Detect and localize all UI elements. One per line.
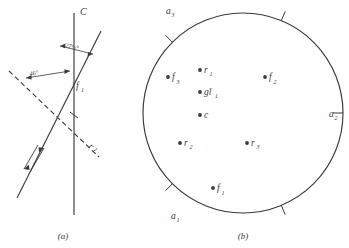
svg-text:3: 3 bbox=[171, 12, 175, 18]
svg-text:f: f bbox=[76, 81, 80, 91]
svg-text:r: r bbox=[184, 138, 188, 148]
label-a2: a 2 bbox=[329, 109, 338, 121]
figure-container: C 27½° 46° f 1 bbox=[0, 0, 349, 248]
label-point-r2: r 2 bbox=[184, 138, 193, 150]
svg-text:r: r bbox=[251, 138, 255, 148]
label-cleavage-C: C bbox=[80, 6, 87, 17]
label-angle-upper: 27½° bbox=[65, 41, 80, 51]
svg-text:3: 3 bbox=[176, 79, 180, 85]
tick-a3 bbox=[165, 35, 172, 42]
svg-text:f: f bbox=[217, 183, 221, 193]
svg-text:gl: gl bbox=[204, 87, 212, 97]
rim-ticks bbox=[165, 11, 343, 214]
point-r3 bbox=[245, 141, 249, 145]
svg-text:a: a bbox=[329, 109, 334, 119]
svg-text:2: 2 bbox=[190, 144, 193, 150]
label-point-c: c bbox=[204, 110, 209, 120]
figure-svg: C 27½° 46° f 1 bbox=[0, 0, 349, 248]
stereonet-circle bbox=[143, 13, 343, 213]
svg-text:2: 2 bbox=[274, 79, 277, 85]
svg-text:1: 1 bbox=[215, 93, 218, 99]
label-point-gl1: gl 1 bbox=[204, 87, 218, 99]
point-gl1 bbox=[198, 90, 202, 94]
label-a1: a 1 bbox=[171, 211, 180, 223]
point-r1 bbox=[198, 68, 202, 72]
tick-bottom-right bbox=[281, 205, 285, 214]
svg-text:r: r bbox=[204, 65, 208, 75]
svg-text:a: a bbox=[171, 211, 176, 221]
point-f2 bbox=[263, 75, 267, 79]
label-point-r1: r 1 bbox=[204, 65, 213, 77]
svg-text:1: 1 bbox=[210, 71, 213, 77]
svg-text:f: f bbox=[172, 72, 176, 82]
svg-text:f: f bbox=[269, 72, 273, 82]
caption-panel-b: (b) bbox=[238, 231, 249, 241]
svg-text:1: 1 bbox=[177, 217, 180, 223]
tick-top-right bbox=[281, 11, 285, 20]
dashed-line-r1 bbox=[9, 71, 99, 157]
svg-text:c: c bbox=[204, 110, 209, 120]
svg-text:3: 3 bbox=[256, 144, 260, 150]
label-point-f2: f 2 bbox=[269, 72, 277, 85]
svg-text:a: a bbox=[166, 6, 171, 16]
slip-arrow-heads bbox=[24, 147, 44, 170]
point-c bbox=[198, 113, 202, 117]
svg-text:1: 1 bbox=[222, 190, 225, 196]
caption-panel-a: (a) bbox=[58, 231, 69, 241]
plotted-points bbox=[166, 68, 267, 190]
tick-a1 bbox=[165, 184, 172, 191]
point-f3 bbox=[166, 75, 170, 79]
point-f1 bbox=[211, 186, 215, 190]
label-point-f1: f 1 bbox=[217, 183, 225, 196]
label-angle-lower: 46° bbox=[29, 68, 39, 77]
point-r2 bbox=[178, 141, 182, 145]
label-point-r3: r 3 bbox=[251, 138, 260, 150]
label-a3: a 3 bbox=[166, 6, 175, 18]
svg-text:2: 2 bbox=[335, 115, 338, 121]
panel-a: C 27½° 46° f 1 bbox=[9, 6, 101, 241]
label-f1-panel-a: f 1 bbox=[76, 81, 84, 93]
label-point-f3: f 3 bbox=[172, 72, 180, 85]
svg-text:1: 1 bbox=[81, 87, 84, 93]
panel-b: a 3 a 2 a 1 bbox=[143, 6, 343, 241]
